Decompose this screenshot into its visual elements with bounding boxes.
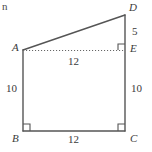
vertex-label-E: E	[130, 43, 137, 54]
measure-label-AE: 12	[68, 56, 79, 67]
measure-label-BC: 12	[68, 134, 79, 145]
measure-label-EC: 10	[131, 83, 142, 94]
geometry-figure: n A B C D E 10 12 12 10 5	[0, 0, 152, 152]
edge-AD	[23, 15, 125, 50]
vertex-label-A: A	[12, 42, 19, 53]
vertex-label-D: D	[129, 2, 137, 13]
right-angle-mark-B	[23, 124, 30, 131]
measure-label-DE: 5	[132, 26, 138, 37]
vertex-label-B: B	[12, 133, 19, 144]
right-angle-mark-C	[118, 124, 125, 131]
figure-canvas	[0, 0, 152, 152]
vertex-label-C: C	[130, 133, 137, 144]
figure-edges	[23, 15, 125, 131]
right-angle-mark-E	[118, 44, 125, 50]
measure-label-AB: 10	[6, 83, 17, 94]
